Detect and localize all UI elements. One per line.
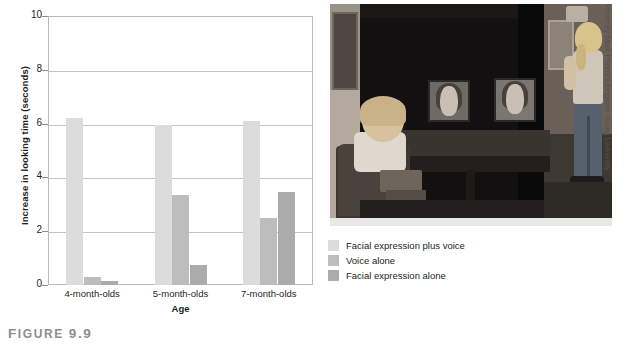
video-screen-right xyxy=(494,78,536,122)
bar-chart: Increase in looking time (seconds) 02468… xyxy=(0,0,330,315)
bar xyxy=(190,265,207,285)
legend-swatch xyxy=(328,255,339,266)
y-tick-label: 6 xyxy=(8,117,42,128)
photograph xyxy=(330,4,612,226)
legend-label: Facial expression plus voice xyxy=(346,240,465,251)
photo-credit: Photo by Mark Philbrick/Brigham Young Un… xyxy=(598,0,612,220)
y-axis-title: Increase in looking time (seconds) xyxy=(19,46,30,246)
y-tick-mark xyxy=(42,177,48,178)
legend-label: Facial expression alone xyxy=(346,270,446,281)
caption-number: 9.9 xyxy=(69,326,93,341)
bar xyxy=(84,277,101,285)
legend-item: Voice alone xyxy=(328,253,465,268)
y-tick-label: 0 xyxy=(8,278,42,289)
x-category-label: 5-month-olds xyxy=(131,288,231,299)
y-tick-label: 10 xyxy=(8,9,42,20)
photo-image xyxy=(330,4,612,226)
figure-9-9: Increase in looking time (seconds) 02468… xyxy=(0,0,642,349)
gridline xyxy=(49,71,312,72)
caption-prefix: F xyxy=(8,326,18,341)
bar xyxy=(155,125,172,285)
gridline xyxy=(49,125,312,126)
gridline xyxy=(49,178,312,179)
bar xyxy=(243,121,260,285)
legend-swatch xyxy=(328,240,339,251)
bar xyxy=(66,118,83,285)
y-tick-label: 2 xyxy=(8,224,42,235)
figure-caption: FIGURE 9.9 xyxy=(8,326,92,341)
y-tick-mark xyxy=(42,70,48,71)
y-tick-label: 4 xyxy=(8,170,42,181)
bar xyxy=(172,195,189,285)
bar xyxy=(278,192,295,285)
y-tick-mark xyxy=(42,16,48,17)
legend-item: Facial expression alone xyxy=(328,268,465,283)
x-category-label: 4-month-olds xyxy=(42,288,142,299)
bar xyxy=(260,218,277,285)
chart-legend: Facial expression plus voiceVoice aloneF… xyxy=(328,238,465,283)
legend-label: Voice alone xyxy=(346,255,395,266)
caption-word: IGURE xyxy=(18,327,64,341)
legend-item: Facial expression plus voice xyxy=(328,238,465,253)
x-category-label: 7-month-olds xyxy=(219,288,319,299)
y-tick-label: 8 xyxy=(8,63,42,74)
y-tick-mark xyxy=(42,285,48,286)
y-tick-mark xyxy=(42,231,48,232)
legend-swatch xyxy=(328,270,339,281)
bar xyxy=(101,281,118,285)
x-axis-title: Age xyxy=(48,303,313,314)
video-screen-left xyxy=(428,80,470,122)
wall-picture-frame xyxy=(332,12,358,90)
y-tick-mark xyxy=(42,124,48,125)
